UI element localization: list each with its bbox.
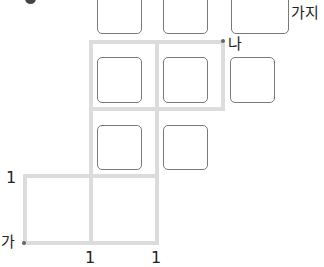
answer-box-r1c2[interactable]: [163, 0, 208, 34]
answer-box-r1c1[interactable]: [97, 0, 142, 34]
edge-count-bottom-2: 1: [151, 250, 161, 266]
grid-line-v-2: [89, 40, 93, 245]
answer-box-r2c1[interactable]: [97, 57, 142, 103]
unit-label: 가지: [291, 6, 319, 21]
edge-count-left: 1: [6, 170, 16, 186]
answer-box-r3c1[interactable]: [97, 125, 142, 170]
final-answer-box[interactable]: [231, 0, 289, 34]
grid-line-v-3: [155, 40, 159, 245]
start-point-label: 가: [1, 235, 15, 250]
start-point-dot: [22, 241, 26, 245]
answer-box-r3c2[interactable]: [163, 125, 208, 170]
end-point-label: 나: [228, 37, 242, 52]
problem-number-badge: [25, 0, 36, 4]
end-point-dot: [221, 39, 225, 43]
answer-box-r2c2[interactable]: [163, 57, 208, 103]
answer-box-r2c3[interactable]: [230, 57, 275, 103]
grid-line-v-1: [23, 174, 27, 245]
edge-count-bottom-1: 1: [85, 250, 95, 266]
grid-line-v-4: [221, 40, 225, 111]
